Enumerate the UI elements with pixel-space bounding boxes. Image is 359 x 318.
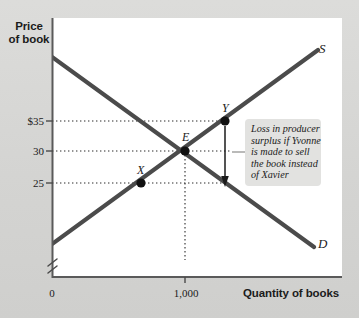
demand-curve-label: D [318, 236, 327, 252]
point-label-X: X [137, 163, 144, 178]
callout-line-1: Loss in producer [251, 123, 316, 135]
callout-line-5: of Xavier [251, 169, 316, 181]
supply-curve-label: S [319, 41, 326, 57]
callout-line-2: surplus if Yvonne [251, 135, 316, 147]
point-label-E: E [182, 130, 189, 145]
callout-line-3: is made to sell [251, 146, 316, 158]
figure-root: Price of book Quantity of books $35 30 2… [0, 0, 359, 318]
point-label-Y: Y [222, 101, 229, 116]
loss-callout-box: Loss in producer surplus if Yvonne is ma… [245, 119, 321, 186]
callout-line-4: the book instead [251, 158, 316, 170]
